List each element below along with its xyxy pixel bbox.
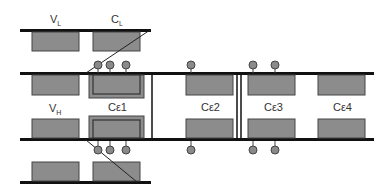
- chain-lines: [20, 29, 374, 184]
- vl-label: VL: [50, 13, 61, 27]
- ce3-lower-domain-box: [248, 119, 295, 138]
- glycan-ball-icon: [187, 61, 195, 69]
- glycans-bottom: [94, 141, 279, 154]
- glycan-ball-icon: [249, 61, 257, 69]
- vl-bottom-domain-box: [32, 162, 79, 181]
- glycan-ball-icon: [249, 146, 257, 154]
- heavy-chain-upper-domains: [32, 75, 365, 98]
- ce1-upper-inner-box: [93, 75, 140, 94]
- glycans-top: [94, 61, 279, 73]
- ce2-upper-domain-box: [186, 75, 233, 95]
- vh-upper-domain-box: [32, 75, 79, 95]
- ce1-label: Cε1: [108, 101, 127, 113]
- ce1-lower-inner-box: [93, 120, 140, 138]
- glycan-ball-icon: [122, 61, 130, 69]
- ce4-upper-domain-box: [318, 75, 365, 95]
- glycan-ball-icon: [271, 61, 279, 69]
- antibody-domain-diagram: VL CL VH Cε1 Cε2 Cε3 Cε4: [0, 0, 387, 193]
- cl-label: CL: [111, 13, 123, 27]
- glycan-ball-icon: [94, 61, 102, 69]
- vh-label: VH: [49, 102, 61, 116]
- ce2-lower-domain-box: [186, 119, 233, 138]
- ce4-label: Cε4: [333, 101, 352, 113]
- glycan-ball-icon: [271, 146, 279, 154]
- vl-domain-box: [32, 32, 79, 51]
- ce2-label: Cε2: [201, 101, 220, 113]
- ce3-label: Cε3: [264, 101, 283, 113]
- ce3-upper-domain-box: [248, 75, 295, 95]
- glycan-ball-icon: [187, 146, 195, 154]
- glycan-ball-icon: [106, 61, 114, 69]
- vh-lower-domain-box: [32, 119, 79, 138]
- glycan-ball-icon: [94, 146, 102, 154]
- ce4-lower-domain-box: [318, 119, 365, 138]
- glycan-ball-icon: [122, 146, 130, 154]
- heavy-chain-lower-domains: [32, 116, 365, 138]
- glycan-ball-icon: [106, 146, 114, 154]
